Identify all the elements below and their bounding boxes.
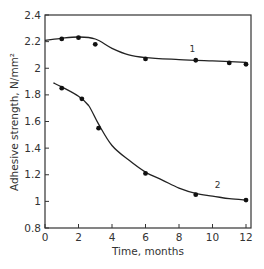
x-tick-label: 12 [239,231,252,243]
data-point [193,58,198,63]
x-axis-title: Time, months [111,245,184,257]
x-tick-label: 6 [142,231,149,243]
data-point [143,57,148,62]
curve-label: 2 [215,180,221,190]
y-tick-label: 1.4 [24,142,41,154]
data-point [79,96,84,101]
series-1: 1 [45,35,248,66]
data-point [143,171,148,176]
series-group: 12 [45,35,248,202]
data-point [244,62,249,67]
x-tick-label: 8 [176,231,183,243]
y-tick-label: 2 [34,62,41,74]
x-tick-label: 10 [206,231,219,243]
data-point [244,198,249,203]
y-tick-label: 2.4 [24,9,41,21]
data-point [96,126,101,131]
data-point [193,192,198,197]
figure-caption-cropped: … … … … [0,262,264,269]
data-point [227,61,232,66]
y-tick-label: 1.2 [24,168,41,180]
x-axis-ticks: 024681012 [42,224,253,243]
curve-label: 1 [190,44,196,54]
data-point [59,86,64,91]
x-tick-label: 2 [75,231,82,243]
x-tick-label: 0 [42,231,49,243]
y-tick-label: 0.8 [24,222,41,234]
y-axis-title: Adhesive strength, N/mm² [8,53,20,191]
adhesive-strength-chart: 0.811.21.41.61.822.22.4 024681012 12 Tim… [0,0,264,269]
data-point [59,37,64,42]
series-2: 2 [53,83,248,203]
x-tick-label: 4 [109,231,116,243]
plot-frame [45,15,251,228]
data-point [93,42,98,47]
data-point [76,35,81,40]
y-tick-label: 1.8 [24,88,41,100]
y-tick-label: 2.2 [24,35,41,47]
y-tick-label: 1.6 [24,115,41,127]
y-tick-label: 1 [34,195,41,207]
